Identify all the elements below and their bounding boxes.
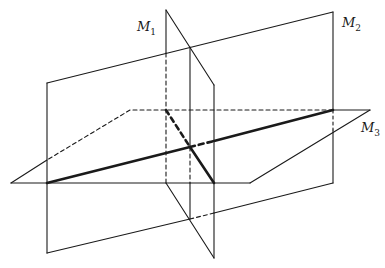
label-m3-sub: 3 [374,128,380,138]
three-planes-diagram [0,0,385,268]
label-m1-main: M [137,19,150,34]
label-m2-main: M [342,15,355,30]
label-m3-main: M [361,120,374,135]
label-m3: M3 [361,121,380,138]
label-m2: M2 [342,16,361,33]
label-m2-sub: 2 [355,23,361,33]
label-m1-sub: 1 [150,27,156,37]
label-m1: M1 [137,20,156,37]
